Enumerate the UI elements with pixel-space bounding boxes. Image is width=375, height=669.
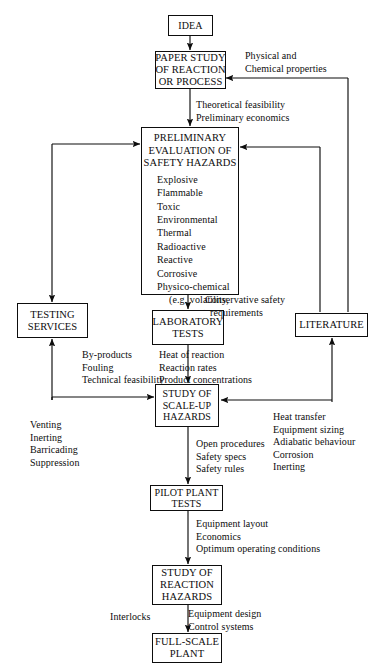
node-reaction-hazards-line-3: HAZARDS [162,591,212,603]
hazard-item-flammable: Flammable [157,186,230,199]
hazard-item-corrosive: Corrosive [157,267,230,280]
hazard-item-explosive: Explosive [157,173,230,186]
node-laboratory-tests-line-2: TESTS [172,328,203,340]
node-testing-services-line-2: SERVICES [28,321,78,333]
edge-label-open-procedures: Open procedures Safety specs Safety rule… [196,438,265,476]
hazard-item-thermal: Thermal [157,226,230,239]
hazard-item-physico-chemical: Physico-chemical [157,280,230,293]
flowchart-canvas: IDEA PAPER STUDY OF REACTION OR PROCESS … [0,0,375,669]
node-reaction-hazards-line-1: STUDY OF [161,567,212,579]
node-pilot-plant-tests[interactable]: PILOT PLANT TESTS [150,485,223,511]
node-preliminary-evaluation-line-1: PRELIMINARY [144,132,237,145]
hazard-item-environmental: Environmental [157,213,230,226]
edge-label-interlocks: Interlocks [110,611,151,624]
node-full-scale-plant-line-2: PLANT [170,648,204,660]
node-preliminary-evaluation-line-3: SAFETY HAZARDS [144,157,237,170]
edge-label-equipment-design: Equipment design Control systems [188,608,261,633]
edge-label-by-products: By-products Fouling Technical feasibilit… [82,349,164,387]
edge-label-heat-of-reaction: Heat of reaction Reaction rates Product … [159,349,252,387]
node-study-of-scale-up-hazards[interactable]: STUDY OF SCALE-UP HAZARDS [155,384,219,427]
edge-label-equipment-layout: Equipment layout Economics Optimum opera… [196,518,320,556]
node-full-scale-plant[interactable]: FULL-SCALE PLANT [152,633,222,663]
node-idea[interactable]: IDEA [168,15,213,36]
node-paper-study-line-1: PAPER STUDY [155,52,225,64]
node-preliminary-evaluation-header: PRELIMINARY EVALUATION OF SAFETY HAZARDS [144,132,237,170]
node-scale-up-line-2: SCALE-UP [163,400,212,411]
hazard-item-toxic: Toxic [157,200,230,213]
node-pilot-plant-line-1: PILOT PLANT [155,487,219,498]
edge-label-physical-chemical-properties: Physical and Chemical properties [245,50,327,75]
node-literature[interactable]: LITERATURE [295,313,368,337]
edge-label-conservative-safety: Conservative safety requirements [205,294,285,319]
edge-label-theoretical-feasibility: Theoretical feasibility Preliminary econ… [196,99,290,124]
hazard-item-reactive: Reactive [157,253,230,266]
node-full-scale-plant-line-1: FULL-SCALE [155,636,219,648]
node-idea-line-1: IDEA [178,20,202,31]
edge-label-heat-transfer: Heat transfer Equipment sizing Adiabatic… [273,411,355,474]
node-pilot-plant-line-2: TESTS [172,498,202,509]
node-scale-up-line-3: HAZARDS [163,411,211,422]
node-reaction-hazards-line-2: REACTION [160,579,214,591]
node-preliminary-evaluation-line-2: EVALUATION OF [144,145,237,158]
node-literature-line-1: LITERATURE [299,319,364,331]
node-paper-study-line-3: OR PROCESS [159,76,223,88]
node-scale-up-line-1: STUDY OF [162,388,211,399]
node-paper-study-line-2: OF REACTION [155,64,225,76]
node-testing-services-line-1: TESTING [30,309,74,321]
node-study-of-reaction-hazards[interactable]: STUDY OF REACTION HAZARDS [152,565,222,605]
edge-label-venting: Venting Inerting Barricading Suppression [30,419,79,469]
node-testing-services[interactable]: TESTING SERVICES [17,303,88,338]
node-preliminary-evaluation[interactable]: PRELIMINARY EVALUATION OF SAFETY HAZARDS… [141,127,239,295]
node-paper-study[interactable]: PAPER STUDY OF REACTION OR PROCESS [155,51,226,89]
hazard-item-radioactive: Radioactive [157,240,230,253]
